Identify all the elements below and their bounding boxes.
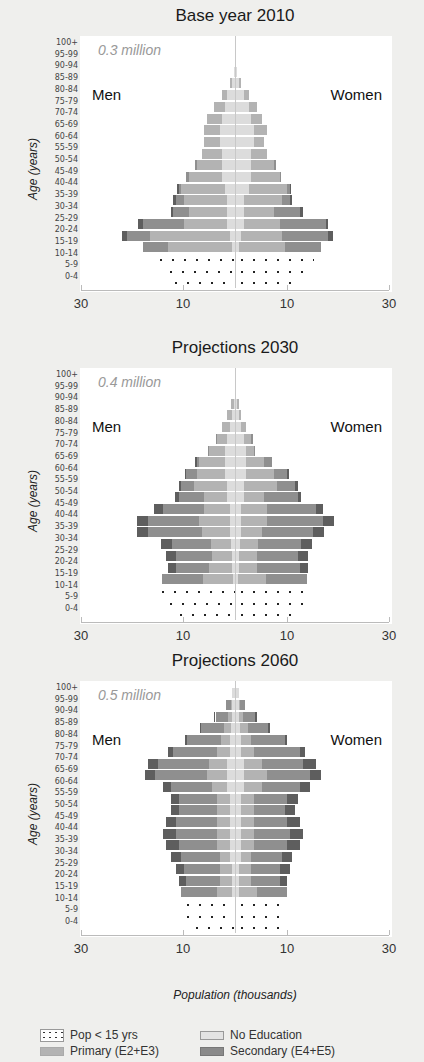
- men-none-segment: [230, 852, 235, 862]
- women-sec-segment: [267, 770, 311, 780]
- x-tick: [389, 930, 390, 935]
- women-none-segment: [236, 481, 244, 491]
- men-none-segment: [225, 446, 235, 456]
- bar-row-65-69: [80, 457, 392, 467]
- women-none-segment: [236, 434, 244, 444]
- bar-row-75-79: [80, 434, 392, 444]
- men-prim-segment: [150, 231, 230, 241]
- bar-row-45-49: [80, 504, 392, 514]
- bar-row-80-84: [80, 735, 392, 745]
- women-prim-segment: [237, 399, 239, 409]
- women-ter-segment: [282, 852, 292, 862]
- men-sec-segment: [176, 551, 212, 561]
- women-prim-segment: [241, 794, 254, 804]
- men-ter-segment: [179, 876, 187, 886]
- light-gray-swatch-icon: [200, 1031, 224, 1040]
- age-label: 75-79: [55, 743, 78, 751]
- bar-row-15-19: [80, 242, 392, 252]
- women-ter-segment: [268, 723, 270, 733]
- men-none-segment: [227, 770, 235, 780]
- age-label: 95-99: [55, 383, 78, 391]
- age-label: 100+: [56, 371, 78, 379]
- men-none-segment: [232, 563, 235, 573]
- men-prim-segment: [168, 242, 232, 252]
- men-sec-segment: [216, 712, 229, 722]
- age-label: 100+: [56, 39, 78, 47]
- pyramid-panel-3: Projections 20600.5 millionMenWomen100+9…: [0, 645, 424, 975]
- age-label: 10-14: [55, 582, 78, 590]
- women-sec-segment: [280, 219, 326, 229]
- bar-row-10-14: [80, 586, 392, 596]
- bar-row-60-64: [80, 137, 392, 147]
- men-none-segment: [227, 492, 235, 502]
- men-ter-segment: [175, 492, 179, 502]
- bar-row-15-19: [80, 574, 392, 584]
- men-sec-segment: [186, 172, 189, 182]
- women-sec-segment: [267, 516, 323, 526]
- x-tick-label: 30: [382, 941, 396, 956]
- men-none-segment: [234, 67, 235, 77]
- bar-row-60-64: [80, 469, 392, 479]
- women-sec-segment: [274, 469, 287, 479]
- women-none-segment: [236, 492, 244, 502]
- women-prim-segment: [246, 446, 254, 456]
- women-prim-segment: [239, 876, 252, 886]
- men-ter-segment: [177, 184, 179, 194]
- women-ter-segment: [300, 563, 308, 573]
- men-none-segment: [227, 481, 235, 491]
- women-sec-segment: [251, 852, 282, 862]
- bar-row-25-29: [80, 864, 392, 874]
- age-label: 90-94: [55, 62, 78, 70]
- men-ter-segment: [173, 195, 176, 205]
- women-prim-segment: [240, 723, 248, 733]
- women-sec-segment: [274, 160, 276, 170]
- age-label: 40-44: [55, 824, 78, 832]
- women-none-segment: [236, 160, 251, 170]
- x-tick-label: 30: [382, 296, 396, 311]
- bar-row-85-89: [80, 78, 392, 88]
- women-ter-segment: [300, 782, 310, 792]
- bar-row-85-89: [80, 410, 392, 420]
- age-label: 60-64: [55, 778, 78, 786]
- women-none-segment: [236, 446, 246, 456]
- women-u15-segment: [236, 598, 303, 608]
- men-prim-segment: [217, 840, 230, 850]
- men-none-segment: [225, 457, 235, 467]
- women-prim-segment: [254, 125, 267, 135]
- bar-row-20-24: [80, 876, 392, 886]
- men-none-segment: [231, 539, 235, 549]
- men-ter-segment: [163, 782, 171, 792]
- women-prim-segment: [241, 840, 254, 850]
- women-prim-segment: [244, 782, 262, 792]
- men-none-segment: [227, 219, 235, 229]
- men-prim-segment: [184, 219, 228, 229]
- age-label: 25-29: [55, 547, 78, 555]
- women-prim-segment: [239, 563, 257, 573]
- women-prim-segment: [244, 219, 280, 229]
- legend-label: Secondary (E4+E5): [230, 1044, 335, 1058]
- age-axis-labels: 100+95-9990-9485-8980-8475-7970-7465-696…: [36, 368, 78, 624]
- women-none-segment: [236, 114, 251, 124]
- women-prim-segment: [239, 551, 257, 561]
- women-prim-segment: [241, 231, 282, 241]
- men-sec-segment: [143, 242, 169, 252]
- men-sec-segment: [179, 794, 217, 804]
- bar-row-45-49: [80, 172, 392, 182]
- bar-row-50-54: [80, 160, 392, 170]
- men-none-segment: [230, 817, 235, 827]
- women-ter-segment: [300, 747, 305, 757]
- x-axis: [81, 290, 389, 291]
- age-label: 70-74: [55, 109, 78, 117]
- men-sec-segment: [184, 864, 220, 874]
- men-sec-segment: [143, 219, 184, 229]
- women-sec-segment: [243, 712, 256, 722]
- age-label: 5-9: [65, 593, 78, 601]
- x-axis: [81, 935, 389, 936]
- x-tick-label: 10: [176, 296, 190, 311]
- bar-row-20-24: [80, 231, 392, 241]
- plot-area: 0.3 millionMenWomen: [80, 36, 392, 292]
- bar-row-90-94: [80, 712, 392, 722]
- age-label: 70-74: [55, 441, 78, 449]
- men-none-segment: [230, 805, 235, 815]
- bar-row-25-29: [80, 219, 392, 229]
